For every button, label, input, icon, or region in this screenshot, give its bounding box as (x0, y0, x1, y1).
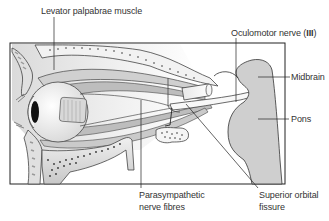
label-midbrain: Midbrain (291, 71, 325, 83)
superior-orbital-line1: Superior orbital (259, 189, 318, 201)
sphenoid-bone (156, 128, 189, 143)
oculomotor-close: ) (313, 28, 316, 38)
label-oculomotor-nerve: Oculomotor nerve (III) (231, 27, 316, 39)
label-pons: Pons (291, 113, 311, 125)
label-superior-orbital-fissure: Superior orbital fissure (259, 189, 318, 213)
parasympathetic-line1: Parasympathetic (139, 189, 205, 201)
superior-orbital-line2: fissure (259, 201, 318, 213)
oculomotor-text: Oculomotor nerve ( (231, 28, 306, 38)
parasympathetic-line2: nerve fibres (139, 201, 205, 213)
pupil (31, 101, 39, 123)
label-levator-palpabrae: Levator palpabrae muscle (41, 5, 142, 17)
lateral-rectus (59, 97, 87, 123)
brainstem-notch (214, 72, 238, 78)
label-parasympathetic-fibres: Parasympathetic nerve fibres (139, 189, 205, 213)
